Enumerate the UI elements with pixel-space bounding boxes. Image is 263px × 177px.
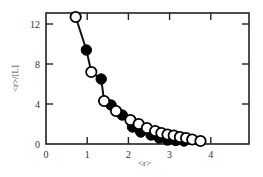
open-circle-point (111, 106, 121, 116)
x-tick-label: 1 (85, 149, 90, 160)
y-tick-label: 4 (35, 99, 40, 110)
data-points (70, 12, 205, 146)
open-circle-point (99, 96, 109, 106)
x-tick-label: 0 (44, 149, 49, 160)
x-tick-label: 4 (208, 149, 213, 160)
axis-ticks: 0123404812 (30, 13, 249, 160)
y-tick-label: 0 (35, 139, 40, 150)
scatter-chart: 0123404812 <r><r>/[L] (0, 0, 263, 177)
y-tick-label: 8 (35, 59, 40, 70)
x-axis-label: <r> (138, 158, 151, 168)
x-tick-label: 3 (167, 149, 172, 160)
y-axis-label: <r>/[L] (10, 65, 20, 92)
filled-circle-point (81, 45, 91, 55)
open-circle-point (70, 12, 80, 22)
y-tick-label: 12 (30, 19, 40, 30)
x-tick-label: 2 (126, 149, 131, 160)
open-circle-point (195, 136, 205, 146)
open-circle-point (86, 67, 96, 77)
filled-circle-point (96, 74, 106, 84)
